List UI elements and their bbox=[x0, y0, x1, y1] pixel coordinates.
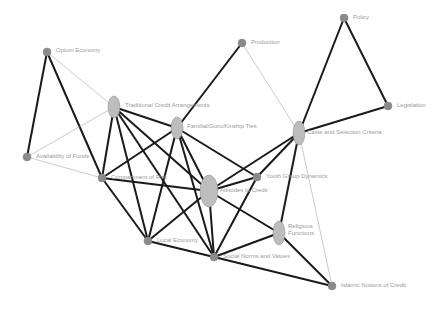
network-diagram: Opium EconomyProductionPolicyLegislation… bbox=[0, 0, 444, 309]
node-opium[interactable] bbox=[43, 48, 51, 56]
node-label-production: Production bbox=[251, 39, 280, 46]
node-label-legislation: Legislation bbox=[397, 102, 426, 109]
node-label-familial: Familial/Guru/Kinship Ties bbox=[187, 123, 257, 130]
node-label-social: Social Norms and Values bbox=[223, 253, 290, 260]
node-label-caste: Caste and Selection Criteria bbox=[307, 129, 382, 136]
node-label-opium: Opium Economy bbox=[56, 47, 100, 54]
node-policy[interactable] bbox=[340, 14, 348, 22]
node-label-policy: Policy bbox=[353, 14, 369, 21]
node-label-consumption: Compartment of Risk bbox=[111, 174, 167, 181]
node-social[interactable] bbox=[210, 253, 218, 261]
node-consumption[interactable] bbox=[98, 174, 106, 182]
node-label-islamic: Islamic Notions of Credit bbox=[341, 282, 406, 289]
node-tatal[interactable] bbox=[200, 175, 218, 207]
node-label-tatal: Attitudes to Credit bbox=[220, 187, 268, 194]
node-availability[interactable] bbox=[23, 153, 31, 161]
node-production[interactable] bbox=[238, 39, 246, 47]
node-label-local: Local Economy bbox=[157, 237, 198, 244]
node-islamic[interactable] bbox=[328, 282, 336, 290]
node-youth[interactable] bbox=[253, 173, 261, 181]
node-local[interactable] bbox=[144, 237, 152, 245]
node-caste[interactable] bbox=[293, 121, 305, 145]
node-religious[interactable] bbox=[273, 221, 285, 245]
node-legislation[interactable] bbox=[384, 102, 392, 110]
node-traditional[interactable] bbox=[108, 96, 120, 118]
node-label-availability: Availability of Funds bbox=[36, 153, 89, 160]
node-familial[interactable] bbox=[171, 117, 183, 139]
node-label-youth: Youth Group Dynamics bbox=[266, 173, 327, 180]
node-label-traditional: Traditional Credit Arrangements bbox=[125, 102, 209, 109]
node-label-religious: ReligiousFunctions bbox=[288, 223, 314, 237]
